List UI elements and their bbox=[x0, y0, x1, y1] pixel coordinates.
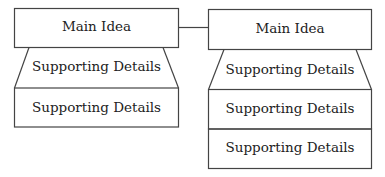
right-detail-label-2: Supporting Details bbox=[208, 102, 372, 116]
right-main-idea-label: Main Idea bbox=[208, 22, 372, 36]
right-detail-label-1: Supporting Details bbox=[208, 63, 372, 77]
left-main-idea-label: Main Idea bbox=[14, 20, 179, 34]
right-detail-label-3: Supporting Details bbox=[208, 141, 372, 155]
left-detail-label-2: Supporting Details bbox=[14, 101, 179, 115]
left-detail-label-1: Supporting Details bbox=[14, 60, 179, 74]
